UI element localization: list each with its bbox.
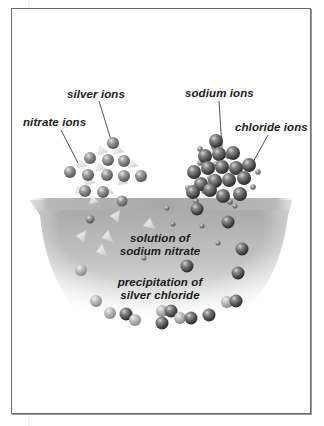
label-silver-ions: silver ions: [67, 88, 125, 100]
label-chloride-ions: chloride ions: [235, 121, 308, 133]
label-solution: solution of sodium nitrate: [116, 232, 204, 258]
label-sodium-ions: sodium ions: [185, 87, 254, 99]
label-solution-line1: solution of: [116, 232, 204, 245]
label-solution-line2: sodium nitrate: [116, 245, 204, 258]
label-nitrate-ions: nitrate ions: [23, 116, 86, 128]
label-precipitate: precipitation of silver chloride: [112, 276, 208, 302]
label-precipitate-line1: precipitation of: [112, 276, 208, 289]
label-precipitate-line2: silver chloride: [112, 289, 208, 302]
diagram-canvas: [0, 0, 324, 426]
